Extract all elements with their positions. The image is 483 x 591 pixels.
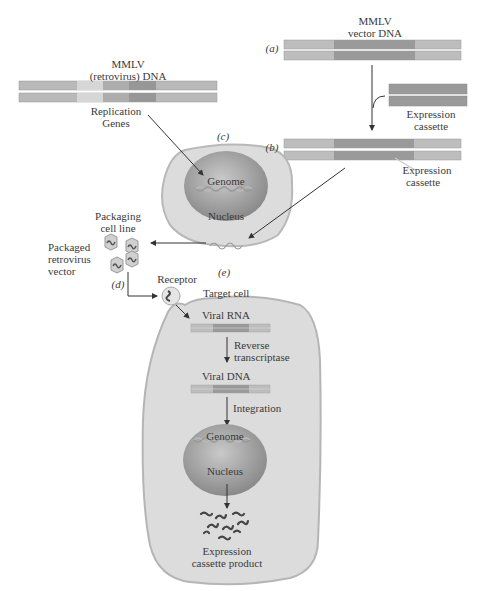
panel-a-label: (a) [262, 42, 282, 54]
viral-rna-strand [191, 324, 270, 332]
mmlv-vector-label-1: MMLV [335, 15, 415, 27]
product-label-2: cassette product [177, 557, 277, 569]
viral-rna-label: Viral RNA [202, 309, 250, 321]
receptor-virus [162, 287, 180, 305]
replication-genes-label-2: Genes [76, 117, 156, 129]
nucleus-e-label: Nucleus [195, 465, 255, 477]
packaging-cell-line-label-1: Packaging [88, 210, 148, 222]
replication-genes-label-1: Replication [76, 105, 156, 117]
mmlv-retrovirus-dna [19, 81, 217, 102]
recombinant-vector-dna [284, 139, 461, 160]
packaged-vector-label-2: retrovirus [48, 253, 91, 265]
integration-label: Integration [233, 402, 281, 414]
expression-cassette-insert [389, 84, 467, 106]
mmlv-vector-label-2: vector DNA [325, 27, 425, 39]
product-label-1: Expression [187, 545, 267, 557]
panel-e-label: (e) [214, 266, 234, 278]
reverse-transcriptase-label-2: transcriptase [234, 351, 290, 363]
genome-c-label: Genome [196, 175, 256, 187]
panel-b-label: (b) [262, 141, 282, 153]
receptor-label: Receptor [147, 273, 207, 285]
genome-e-label: Genome [195, 430, 255, 442]
expression-cassette-b-label-2: cassette [388, 176, 458, 188]
mmlv-retrovirus-label-1: MMLV [88, 58, 168, 70]
panel-c-label: (c) [213, 130, 233, 142]
expression-cassette-top-label-1: Expression [396, 108, 466, 120]
mmlv-retrovirus-label-2: (retrovirus) DNA [68, 70, 188, 82]
packaging-cell [162, 144, 292, 249]
expression-cassette-b-label-1: Expression [392, 164, 462, 176]
packaged-virus-particles [105, 234, 138, 273]
target-cell-label: Target cell [203, 287, 249, 299]
reverse-transcriptase-label-1: Reverse [234, 339, 269, 351]
packaged-vector-label-3: vector [48, 265, 75, 277]
viral-dna-label: Viral DNA [202, 370, 251, 382]
panel-d-label: (d) [108, 278, 128, 290]
mmlv-vector-dna [284, 40, 461, 60]
nucleus-c-label: Nucleus [196, 210, 256, 222]
expression-cassette-top-label-2: cassette [396, 120, 466, 132]
viral-dna-strand [191, 385, 270, 393]
cassette-insert-line [373, 96, 385, 108]
packaging-cell-line-label-2: cell line [88, 222, 148, 234]
packaged-vector-label-1: Packaged [48, 241, 90, 253]
